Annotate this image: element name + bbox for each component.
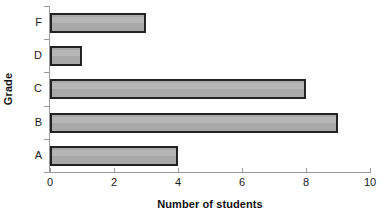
category-label-f: F — [0, 16, 42, 29]
bar-b — [50, 113, 338, 133]
category-axis-tick — [44, 139, 50, 140]
category-axis-tick — [44, 72, 50, 73]
category-axis-tick — [44, 6, 50, 7]
value-axis-tick-6 — [242, 168, 243, 173]
value-axis-tick-10 — [370, 168, 371, 173]
bar-chart: 0 2 4 6 8 10 F D C B A Number of student… — [0, 0, 389, 219]
value-axis-line — [49, 172, 371, 173]
bar-f — [50, 13, 146, 33]
category-label-a: A — [0, 149, 42, 162]
value-axis-label-4: 4 — [158, 176, 198, 189]
bar-a — [50, 146, 178, 166]
value-axis-tick-0 — [50, 168, 51, 173]
y-axis-title: Grade — [2, 59, 14, 119]
value-axis-label-6: 6 — [222, 176, 262, 189]
value-axis-tick-8 — [306, 168, 307, 173]
value-axis-tick-4 — [178, 168, 179, 173]
x-axis-title: Number of students — [50, 198, 370, 210]
value-axis-label-2: 2 — [94, 176, 134, 189]
value-axis-label-0: 0 — [30, 176, 70, 189]
bar-d — [50, 46, 82, 66]
value-axis-label-10: 10 — [350, 176, 389, 189]
value-axis-tick-2 — [114, 168, 115, 173]
category-axis-tick — [44, 39, 50, 40]
category-axis-tick — [44, 106, 50, 107]
bar-c — [50, 79, 306, 99]
value-axis-label-8: 8 — [286, 176, 326, 189]
